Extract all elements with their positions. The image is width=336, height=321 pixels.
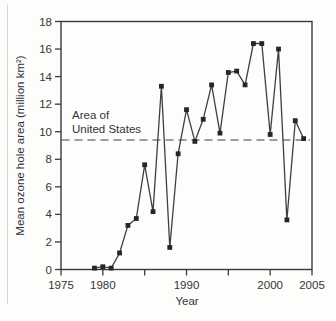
x-tick-label: 1990 [174,279,200,291]
x-tick-label: 2000 [257,279,283,291]
data-point [234,69,239,74]
plot-frame [61,22,312,270]
data-point [276,47,281,52]
data-point [159,84,164,89]
x-tick-label: 2005 [299,279,325,291]
data-point [218,131,223,136]
y-tick-label: 12 [39,98,52,110]
data-point [100,264,105,269]
x-tick-label: 1975 [48,279,74,291]
annotation-line-2: United States [72,123,141,137]
data-point [259,41,264,46]
annotation-line-1: Area of [72,109,141,123]
data-point [117,251,122,256]
data-line [95,44,304,269]
y-tick-label: 14 [39,71,52,83]
y-tick-label: 4 [46,208,53,220]
ozone-hole-area-chart: 02468101214161819751980199020002005 Mean… [0,0,336,321]
data-point [251,41,256,46]
data-point [285,218,290,223]
y-tick-label: 18 [39,16,52,28]
data-point [293,118,298,123]
data-point [134,216,139,221]
data-point [209,82,214,87]
data-point [226,70,231,75]
data-point [243,82,248,87]
x-axis-label: Year [117,295,257,308]
y-tick-label: 16 [39,43,52,55]
y-axis-label: Mean ozone hole area (million km²) [14,6,27,286]
data-point [176,151,181,156]
data-point [126,223,131,228]
data-point [142,162,147,167]
data-point [184,107,189,112]
y-tick-label: 10 [39,126,52,138]
y-tick-label: 0 [46,264,52,276]
data-point [201,117,206,122]
chart-plot-area: 02468101214161819751980199020002005 [0,0,336,321]
data-point [301,136,306,141]
data-point [151,209,156,214]
reference-line-annotation: Area of United States [72,109,141,136]
data-point [92,266,97,271]
y-tick-label: 6 [46,181,52,193]
x-tick-label: 1980 [90,279,116,291]
y-tick-label: 2 [46,236,52,248]
data-point [109,266,114,271]
data-point [192,139,197,144]
data-point [167,245,172,250]
y-tick-label: 8 [46,153,52,165]
data-point [268,132,273,137]
